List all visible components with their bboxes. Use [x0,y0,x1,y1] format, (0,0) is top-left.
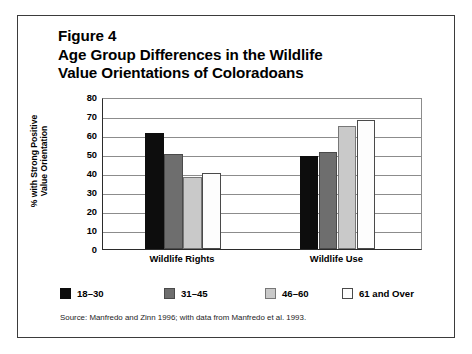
y-axis-tick-label: 50 [87,150,97,160]
legend-label: 46–60 [282,288,309,299]
bar [145,133,164,249]
y-axis-tick-label: 30 [87,188,97,198]
title-line-1: Figure 4 [58,27,438,46]
legend-label: 18–30 [77,288,104,299]
legend: 18–3031–4546–6061 and Over [60,288,432,304]
bar-group [145,99,221,249]
legend-label: 61 and Over [359,288,414,299]
title-line-3: Value Orientations of Coloradoans [58,64,438,83]
legend-swatch [265,288,276,299]
bar [338,126,357,250]
legend-item[interactable]: 46–60 [265,288,309,299]
legend-item[interactable]: 61 and Over [342,288,414,299]
y-axis-tick-label: 70 [87,112,97,122]
bar [183,177,202,249]
legend-swatch [342,288,353,299]
bar [300,156,319,249]
bar [319,152,338,249]
y-axis-label-line-1: % with Strong Positive [29,87,39,235]
figure-frame: Figure 4 Age Group Differences in the Wi… [17,15,455,338]
legend-item[interactable]: 18–30 [60,288,104,299]
y-axis-ticks: 01020304050607080 [48,98,100,250]
bar [357,120,376,249]
y-axis-tick-label: 60 [87,131,97,141]
figure-title: Figure 4 Age Group Differences in the Wi… [58,27,438,83]
legend-swatch [164,288,175,299]
legend-item[interactable]: 31–45 [164,288,208,299]
bar-chart: % with Strong Positive Value Orientation… [18,98,456,283]
y-axis-tick-label: 10 [87,226,97,236]
bars-layer [103,99,421,249]
y-axis-tick-label: 40 [87,169,97,179]
x-axis-labels: Wildlife RightsWildlife Use [102,253,422,269]
bar-group [300,99,376,249]
legend-label: 31–45 [181,288,208,299]
bar [202,173,221,249]
title-line-2: Age Group Differences in the Wildlife [58,46,438,65]
y-axis-tick-label: 80 [87,93,97,103]
source-note: Source: Manfredo and Zinn 1996; with dat… [60,313,440,322]
x-axis-category-label: Wildlife Use [310,253,363,264]
legend-swatch [60,288,71,299]
bar [164,154,183,249]
y-axis-tick-label: 0 [92,245,97,255]
plot-area [102,98,422,250]
y-axis-tick-label: 20 [87,207,97,217]
x-axis-category-label: Wildlife Rights [149,253,214,264]
